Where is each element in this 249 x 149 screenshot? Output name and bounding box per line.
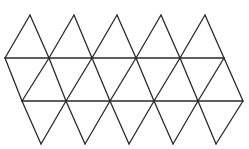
edge-middle-down-right <box>5 58 22 101</box>
edge-middle-down-left <box>154 58 180 101</box>
edge-top-right <box>161 15 180 58</box>
edge-top-right <box>30 15 49 58</box>
edge-top-right <box>117 15 136 58</box>
edge-top-left <box>136 15 161 58</box>
edge-top-left <box>92 15 117 58</box>
edge-middle-down-left <box>66 58 92 101</box>
edge-bottom-right <box>85 101 110 144</box>
edge-bottom-left <box>66 101 85 144</box>
edge-top-right <box>74 15 92 58</box>
edge-middle-down-right <box>92 58 110 101</box>
edge-bottom-right <box>216 101 243 144</box>
edge-top-left <box>49 15 74 58</box>
edge-middle-down-left <box>110 58 136 101</box>
edge-top-right <box>205 15 224 58</box>
edge-top-left <box>5 15 30 58</box>
edge-bottom-right <box>173 101 198 144</box>
edge-bottom-left <box>198 101 216 144</box>
edge-bottom-left <box>110 101 129 144</box>
edge-bottom-right <box>41 101 66 144</box>
edge-middle-down-left <box>198 58 224 101</box>
edge-bottom-right <box>129 101 154 144</box>
edge-middle-down-right <box>136 58 154 101</box>
icosahedron-net-diagram <box>0 0 249 149</box>
edge-top-left <box>180 15 205 58</box>
edge-bottom-left <box>22 101 41 144</box>
edge-middle-down-right <box>180 58 198 101</box>
edge-middle-down-left <box>22 58 49 101</box>
edge-bottom-left <box>154 101 173 144</box>
triangle-lattice <box>0 0 249 149</box>
edge-middle-down-right <box>224 58 243 101</box>
edge-middle-down-right <box>49 58 66 101</box>
